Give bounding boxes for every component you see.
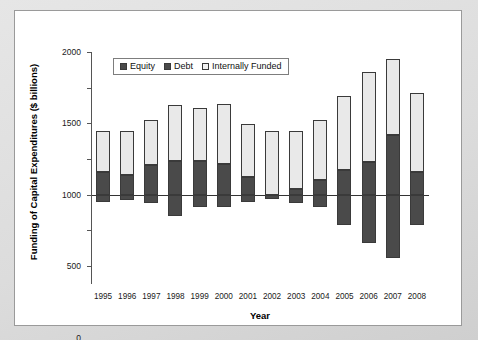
legend-swatch-icon <box>164 63 171 70</box>
x-axis-tick-label: 2007 <box>384 292 402 301</box>
y-axis-tick: 0 <box>87 195 92 196</box>
bar-group[interactable] <box>410 52 424 284</box>
bar-group[interactable] <box>289 52 303 284</box>
bar-segment-internally-funded[interactable] <box>289 131 303 188</box>
chart-figure-frame: Funding of Capital Expenditures ($ billi… <box>14 10 462 326</box>
bar-segment-debt[interactable] <box>313 180 327 194</box>
bar-group[interactable] <box>241 52 255 284</box>
y-axis-tick: 1000 <box>87 123 92 124</box>
bar-group[interactable] <box>193 52 207 284</box>
y-axis-tick: 500 <box>87 159 92 160</box>
x-axis-tick-label: 2008 <box>408 292 426 301</box>
y-axis-tick-label: 0 <box>76 333 81 340</box>
y-axis-tick-label: 500 <box>67 261 81 271</box>
bar-group[interactable] <box>217 52 231 284</box>
x-axis-tick-label: 2005 <box>335 292 353 301</box>
bar-segment-debt[interactable] <box>386 135 400 195</box>
x-axis-tick-label: 2000 <box>215 292 233 301</box>
bar-group[interactable] <box>96 52 110 284</box>
bar-segment-equity[interactable] <box>120 195 134 201</box>
bar-segment-internally-funded[interactable] <box>386 59 400 135</box>
bar-segment-equity[interactable] <box>362 195 376 243</box>
legend-item[interactable]: Debt <box>164 61 193 71</box>
bar-segment-equity[interactable] <box>193 195 207 207</box>
bar-segment-equity[interactable] <box>265 195 279 199</box>
x-axis-tick-label: 1997 <box>142 292 160 301</box>
y-axis-title-line1: Funding of Capital Expenditures ($ billi… <box>28 64 39 260</box>
bar-segment-debt[interactable] <box>96 172 110 195</box>
x-axis-tick-label: 1998 <box>166 292 184 301</box>
bar-group[interactable] <box>386 52 400 284</box>
legend-label: Equity <box>130 61 155 71</box>
bar-group[interactable] <box>144 52 158 284</box>
legend-label: Debt <box>174 61 193 71</box>
x-axis-tick-label: 1999 <box>191 292 209 301</box>
bar-segment-equity[interactable] <box>386 195 400 259</box>
stacked-bar-chart: Funding of Capital Expenditures ($ billi… <box>15 11 461 325</box>
bar-group[interactable] <box>168 52 182 284</box>
bar-group[interactable] <box>120 52 134 284</box>
legend-swatch-icon <box>202 63 209 70</box>
x-axis-tick-label: 2003 <box>287 292 305 301</box>
bar-segment-debt[interactable] <box>144 165 158 195</box>
legend-swatch-icon <box>120 63 127 70</box>
bar-segment-debt[interactable] <box>241 177 255 195</box>
bar-segment-internally-funded[interactable] <box>168 105 182 161</box>
bar-segment-debt[interactable] <box>120 175 134 194</box>
bar-segment-equity[interactable] <box>313 195 327 207</box>
bar-group[interactable] <box>265 52 279 284</box>
y-axis-tick-label: 2000 <box>62 47 81 57</box>
bar-group[interactable] <box>313 52 327 284</box>
bar-segment-debt[interactable] <box>337 170 351 195</box>
y-axis-tick: −1000 <box>87 266 92 267</box>
bar-segment-internally-funded[interactable] <box>144 120 158 165</box>
screenshot-page: Funding of Capital Expenditures ($ billi… <box>0 0 478 340</box>
bar-segment-equity[interactable] <box>96 195 110 202</box>
chart-legend: EquityDebtInternally Funded <box>113 58 289 75</box>
y-axis-tick: 2000 <box>87 52 92 53</box>
bar-segment-equity[interactable] <box>289 195 303 203</box>
bar-segment-internally-funded[interactable] <box>241 124 255 177</box>
bar-segment-internally-funded[interactable] <box>362 72 376 162</box>
bar-segment-internally-funded[interactable] <box>410 93 424 172</box>
bar-segment-internally-funded[interactable] <box>193 108 207 161</box>
bar-segment-equity[interactable] <box>410 195 424 225</box>
bar-segment-debt[interactable] <box>168 161 182 195</box>
bar-segment-debt[interactable] <box>410 172 424 194</box>
bar-segment-equity[interactable] <box>241 195 255 202</box>
bar-segment-internally-funded[interactable] <box>337 96 351 170</box>
bar-segment-equity[interactable] <box>144 195 158 204</box>
legend-label: Internally Funded <box>212 61 282 71</box>
x-axis-tick-label: 2001 <box>239 292 257 301</box>
x-axis-tick-label: 2004 <box>311 292 329 301</box>
bar-segment-internally-funded[interactable] <box>217 104 231 164</box>
bar-group[interactable] <box>337 52 351 284</box>
y-axis-title-container: Funding of Capital Expenditures ($ billi… <box>23 47 43 277</box>
y-axis-tick: −500 <box>87 230 92 231</box>
bar-segment-internally-funded[interactable] <box>313 120 327 180</box>
legend-item[interactable]: Internally Funded <box>202 61 282 71</box>
bar-segment-equity[interactable] <box>337 195 351 225</box>
bar-segment-internally-funded[interactable] <box>96 131 110 172</box>
x-axis-tick-label: 1996 <box>118 292 136 301</box>
y-axis-tick-label: 1000 <box>62 190 81 200</box>
bar-segment-debt[interactable] <box>217 164 231 195</box>
bar-segment-internally-funded[interactable] <box>120 131 134 175</box>
zero-baseline <box>91 195 429 196</box>
x-axis-tick-label: 2006 <box>360 292 378 301</box>
bar-segment-debt[interactable] <box>362 162 376 195</box>
bar-segment-equity[interactable] <box>217 195 231 207</box>
bar-segment-debt[interactable] <box>193 161 207 195</box>
bar-group[interactable] <box>362 52 376 284</box>
y-axis-tick-label: 1500 <box>62 118 81 128</box>
bar-segment-internally-funded[interactable] <box>265 131 279 195</box>
y-axis-tick: 1500 <box>87 88 92 89</box>
x-axis-tick-label: 2002 <box>263 292 281 301</box>
plot-area: 2000150010005000−500−1000 <box>91 52 429 284</box>
legend-item[interactable]: Equity <box>120 61 155 71</box>
y-axis-title: Funding of Capital Expenditures ($ billi… <box>28 64 39 260</box>
x-axis-title: Year <box>91 310 429 321</box>
bar-segment-equity[interactable] <box>168 195 182 216</box>
x-axis-tick-label: 1995 <box>94 292 112 301</box>
